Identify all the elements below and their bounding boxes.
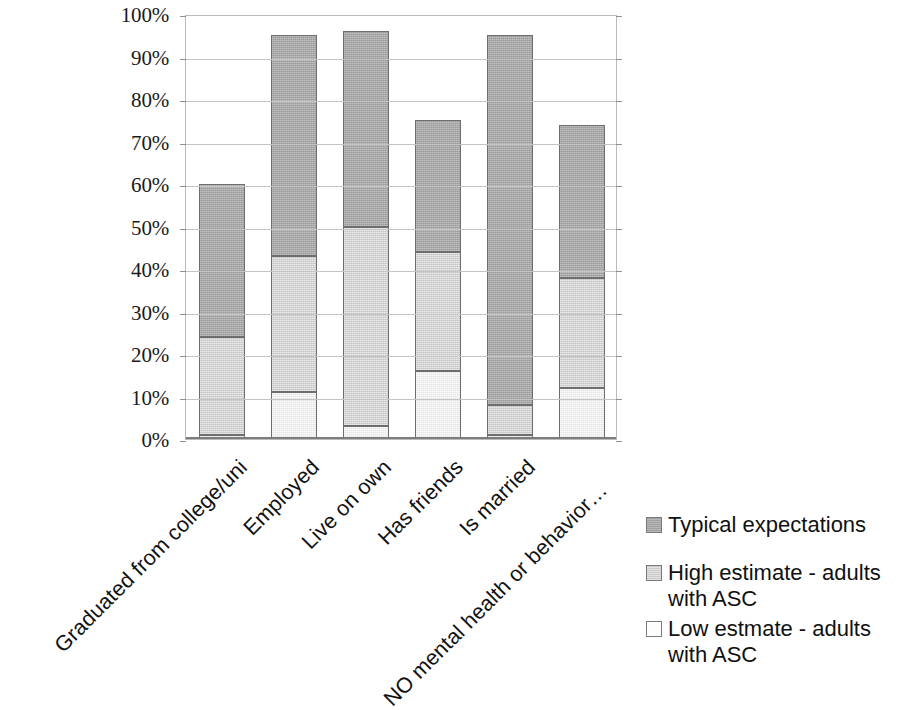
legend-entry-low-estimate[interactable]: Low estmate - adults with ASC [646, 616, 908, 668]
y-tick-mark [180, 59, 186, 60]
bar-segment-high-estimate[interactable] [271, 256, 317, 392]
x-axis-baseline [186, 437, 616, 439]
bar-segment-typical-expectations[interactable] [271, 35, 317, 256]
y-tick-mark [180, 271, 186, 272]
bar-segment-typical-expectations[interactable] [487, 35, 533, 405]
bar-group[interactable] [199, 14, 245, 439]
bar-segment-typical-expectations[interactable] [559, 125, 605, 278]
y-tick-mark [180, 144, 186, 145]
bar-group[interactable] [343, 14, 389, 439]
bar-group[interactable] [559, 14, 605, 439]
y-tick-mark-right [616, 229, 622, 230]
y-tick-mark-right [616, 101, 622, 102]
white-swatch-icon [646, 621, 662, 637]
legend-label: Typical expectations [668, 512, 866, 538]
y-tick-label: 10% [131, 385, 169, 410]
gridline [186, 186, 616, 187]
gridline [186, 229, 616, 230]
y-tick-label: 30% [131, 300, 169, 325]
chart-legend: Typical expectations High estimate - adu… [646, 512, 908, 672]
x-axis-label: Live on own [0, 455, 397, 710]
bar-segment-high-estimate[interactable] [559, 278, 605, 389]
y-tick-label: 80% [131, 88, 169, 113]
y-tick-mark-right [616, 186, 622, 187]
legend-label: Low estmate - adults with ASC [668, 616, 908, 668]
y-tick-label: 0% [141, 428, 169, 453]
light-gray-swatch-icon [646, 565, 662, 581]
y-tick-mark [180, 101, 186, 102]
bars-layer [186, 16, 616, 439]
y-tick-mark [180, 356, 186, 357]
y-tick-mark [180, 229, 186, 230]
x-axis-label: Graduated from college/uni [0, 455, 253, 710]
y-tick-mark [180, 399, 186, 400]
y-tick-mark [180, 441, 186, 442]
plot-area [185, 15, 617, 440]
y-tick-mark-right [616, 16, 622, 17]
bar-segment-high-estimate[interactable] [487, 405, 533, 435]
y-tick-label: 60% [131, 173, 169, 198]
y-tick-label: 100% [121, 3, 169, 28]
legend-label: High estimate - adults with ASC [668, 560, 908, 612]
gridline [186, 144, 616, 145]
y-tick-mark-right [616, 441, 622, 442]
y-tick-mark-right [616, 59, 622, 60]
y-tick-label: 50% [131, 215, 169, 240]
y-tick-label: 20% [131, 343, 169, 368]
bar-segment-typical-expectations[interactable] [343, 31, 389, 227]
y-axis: 100%90%80%70%60%50%40%30%20%10%0% [95, 15, 177, 440]
y-tick-mark [180, 314, 186, 315]
legend-entry-typical-expectations[interactable]: Typical expectations [646, 512, 908, 538]
gridline [186, 59, 616, 60]
y-tick-mark-right [616, 314, 622, 315]
y-tick-label: 40% [131, 258, 169, 283]
gridline [186, 271, 616, 272]
dark-gray-swatch-icon [646, 517, 662, 533]
gridline [186, 399, 616, 400]
gridline [186, 314, 616, 315]
legend-entry-high-estimate[interactable]: High estimate - adults with ASC [646, 560, 908, 612]
bar-group[interactable] [487, 14, 533, 439]
bar-segment-high-estimate[interactable] [199, 337, 245, 435]
x-axis-label: Employed [0, 455, 325, 710]
gridline [186, 101, 616, 102]
bar-segment-high-estimate[interactable] [343, 227, 389, 427]
y-tick-label: 90% [131, 45, 169, 70]
y-tick-label: 70% [131, 130, 169, 155]
bar-segment-low-estimate[interactable] [559, 388, 605, 439]
y-tick-mark [180, 16, 186, 17]
bar-segment-high-estimate[interactable] [415, 252, 461, 371]
y-tick-mark [180, 186, 186, 187]
bar-group[interactable] [415, 14, 461, 439]
y-tick-mark-right [616, 144, 622, 145]
bar-segment-low-estimate[interactable] [415, 371, 461, 439]
x-axis-label: NO mental health or behavior… [171, 478, 613, 710]
y-tick-mark-right [616, 356, 622, 357]
y-tick-mark-right [616, 271, 622, 272]
y-tick-mark-right [616, 399, 622, 400]
x-axis-label: Has friends [27, 455, 469, 710]
x-axis-label: Is married [99, 455, 541, 710]
gridline [186, 356, 616, 357]
bar-group[interactable] [271, 14, 317, 439]
